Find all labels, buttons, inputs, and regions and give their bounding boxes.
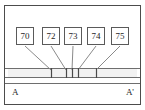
callout-label-73: 73 [69, 31, 79, 41]
callout-74[interactable]: 74 [88, 28, 105, 45]
callout-label-75: 75 [116, 31, 126, 41]
section-endpoint-left: A [12, 87, 19, 97]
cross-section-canvas: 70 72 73 74 75 A A' [0, 0, 145, 110]
callout-75[interactable]: 75 [112, 28, 129, 45]
callout-72[interactable]: 72 [43, 28, 60, 45]
callout-70[interactable]: 70 [17, 28, 34, 45]
callout-73[interactable]: 73 [65, 28, 82, 45]
callout-label-74: 74 [92, 31, 102, 41]
callout-label-72: 72 [47, 31, 56, 41]
cross-section-figure: 70 72 73 74 75 A A' [0, 0, 145, 110]
callout-label-70: 70 [21, 31, 31, 41]
section-endpoint-right: A' [126, 87, 134, 97]
